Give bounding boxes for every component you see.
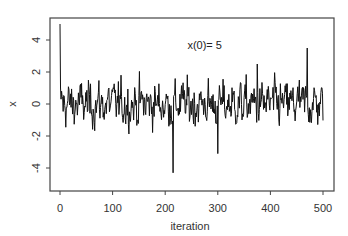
y-tick-label: -2: [30, 131, 42, 141]
x-axis-title: iteration: [170, 220, 209, 232]
x-tick-label: 0: [57, 202, 63, 214]
trace-plot: -4-2024 0100200300400500 x(0)= 5 iterati…: [0, 0, 348, 236]
x-tick-label: 200: [156, 202, 174, 214]
y-axis-title: x: [6, 101, 18, 107]
y-tick-label: 4: [30, 37, 42, 43]
y-tick-label: 0: [30, 101, 42, 107]
y-tick-label: 2: [30, 69, 42, 75]
x-tick-label: 100: [103, 202, 121, 214]
x-tick-label: 500: [314, 202, 332, 214]
x-tick-label: 400: [261, 202, 279, 214]
x-tick-label: 300: [209, 202, 227, 214]
y-axis: -4-2024: [30, 37, 50, 173]
x-axis: 0100200300400500: [57, 191, 332, 214]
initial-value-annotation: x(0)= 5: [187, 39, 222, 51]
y-tick-label: -4: [30, 163, 42, 173]
